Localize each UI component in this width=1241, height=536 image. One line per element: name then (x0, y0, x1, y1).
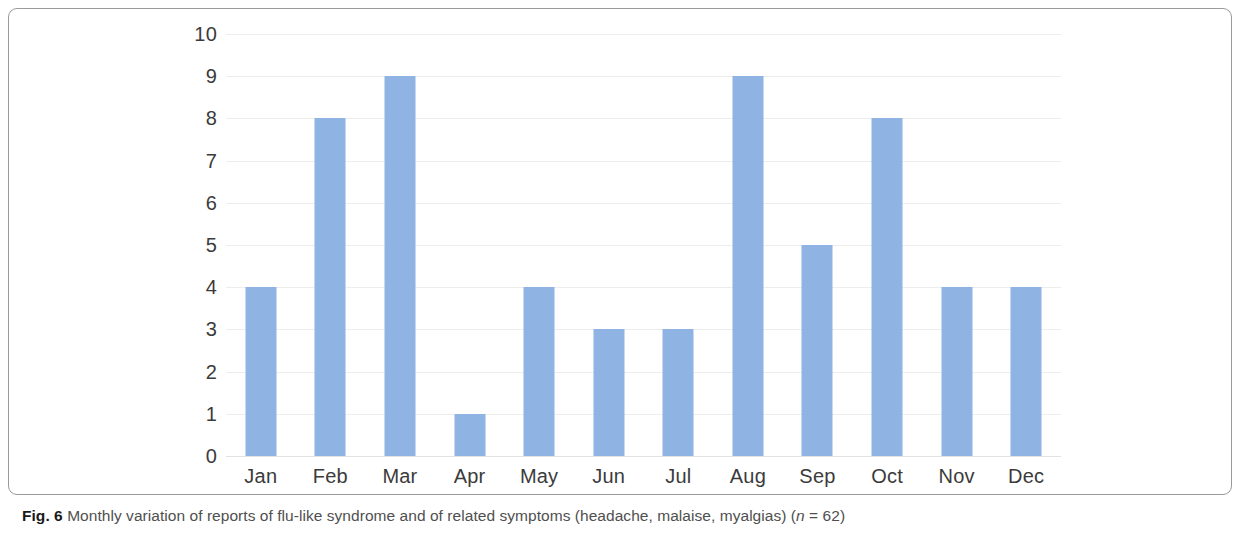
y-tick-label-9: 9 (159, 66, 217, 86)
bar-slot (991, 34, 1061, 456)
bar-slot (783, 34, 853, 456)
x-tick-label-oct: Oct (852, 464, 922, 488)
bar-feb[interactable] (315, 118, 346, 456)
gridline-0 (226, 456, 1061, 457)
y-tick-label-4: 4 (159, 277, 217, 297)
y-tick-label-1: 1 (159, 404, 217, 424)
y-tick-label-7: 7 (159, 151, 217, 171)
bar-may[interactable] (524, 287, 555, 456)
bar-oct[interactable] (872, 118, 903, 456)
y-tick-label-0: 0 (159, 446, 217, 466)
n-symbol: n (796, 507, 805, 524)
bar-jun[interactable] (593, 329, 624, 456)
y-tick-label-2: 2 (159, 362, 217, 382)
x-tick-label-dec: Dec (991, 464, 1061, 488)
bar-chart: 012345678910 JanFebMarAprMayJunJulAugSep… (9, 9, 1233, 496)
bar-sep[interactable] (802, 245, 833, 456)
figure-border-box: 012345678910 JanFebMarAprMayJunJulAugSep… (8, 8, 1232, 495)
x-tick-label-sep: Sep (783, 464, 853, 488)
x-tick-label-feb: Feb (296, 464, 366, 488)
bar-apr[interactable] (454, 414, 485, 456)
y-tick-label-3: 3 (159, 319, 217, 339)
x-tick-label-mar: Mar (365, 464, 435, 488)
bar-slot (365, 34, 435, 456)
caption-sentence: Monthly variation of reports of flu-like… (67, 507, 786, 524)
x-tick-label-jan: Jan (226, 464, 296, 488)
bar-aug[interactable] (732, 76, 763, 456)
x-tick-label-may: May (504, 464, 574, 488)
x-tick-label-jun: Jun (574, 464, 644, 488)
plot-region (226, 34, 1061, 456)
x-tick-label-jul: Jul (644, 464, 714, 488)
figure-caption: Fig. 6 Monthly variation of reports of f… (22, 506, 1222, 527)
bar-slot (713, 34, 783, 456)
bars-layer (226, 34, 1061, 456)
x-tick-label-apr: Apr (435, 464, 505, 488)
x-tick-label-nov: Nov (922, 464, 992, 488)
y-axis: 012345678910 (159, 34, 217, 456)
bar-slot (852, 34, 922, 456)
y-tick-label-6: 6 (159, 193, 217, 213)
x-axis: JanFebMarAprMayJunJulAugSepOctNovDec (226, 464, 1061, 494)
bar-dec[interactable] (1011, 287, 1042, 456)
figure-6: 012345678910 JanFebMarAprMayJunJulAugSep… (0, 0, 1241, 536)
bar-slot (296, 34, 366, 456)
y-tick-label-5: 5 (159, 235, 217, 255)
bar-mar[interactable] (384, 76, 415, 456)
bar-slot (504, 34, 574, 456)
y-tick-label-8: 8 (159, 108, 217, 128)
bar-slot (574, 34, 644, 456)
bar-slot (644, 34, 714, 456)
bar-slot (922, 34, 992, 456)
figure-number: Fig. 6 (22, 507, 63, 524)
bar-slot (226, 34, 296, 456)
bar-nov[interactable] (941, 287, 972, 456)
n-value: = 62) (805, 507, 845, 524)
bar-slot (435, 34, 505, 456)
y-tick-label-10: 10 (159, 24, 217, 44)
x-tick-label-aug: Aug (713, 464, 783, 488)
caption-body: Monthly variation of reports of flu-like… (63, 507, 845, 524)
bar-jan[interactable] (245, 287, 276, 456)
bar-jul[interactable] (663, 329, 694, 456)
sample-size: (n = 62) (791, 507, 845, 524)
